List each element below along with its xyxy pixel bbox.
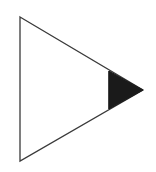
triangle-figure [0,0,156,172]
shaded-tip [109,71,143,109]
diagram-canvas: Triangle with shaded tip [0,0,156,172]
